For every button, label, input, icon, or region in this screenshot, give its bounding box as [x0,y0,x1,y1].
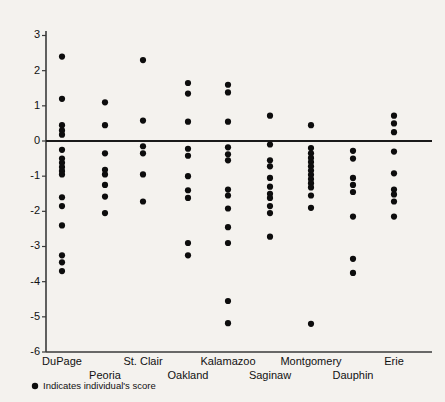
data-point [350,189,356,195]
data-point [391,120,397,126]
data-point [350,256,356,262]
data-point [59,96,65,102]
data-point [59,122,65,128]
data-point [59,252,65,258]
data-point [185,173,191,179]
data-point [140,171,146,177]
data-point [185,240,191,246]
data-point [391,198,397,204]
data-point [140,150,146,156]
data-point [225,192,231,198]
data-point [308,145,314,151]
data-point [59,147,65,153]
data-point [59,259,65,265]
data-point [350,214,356,220]
data-point [225,186,231,192]
data-point [391,214,397,220]
data-point [391,113,397,119]
data-point [267,234,273,240]
y-tick-label: -2 [30,204,40,216]
data-point [267,141,273,147]
data-point [140,57,146,63]
data-point-group [59,54,397,327]
y-axis-tick-labels: 3210-1-2-3-4-5-6 [30,28,40,357]
data-point [102,193,108,199]
y-tick-label: -4 [30,275,40,287]
data-point [102,122,108,128]
x-category-label: Montgomery [280,355,342,367]
data-point [308,122,314,128]
data-point [267,210,273,216]
legend-marker-icon [32,383,38,389]
data-point [350,182,356,188]
scatter-plot-canvas: 3210-1-2-3-4-5-6 DuPagePeoriaSt. ClairOa… [0,0,445,402]
data-point [267,184,273,190]
data-point [308,192,314,198]
data-point [225,144,231,150]
x-category-label: DuPage [42,355,82,367]
data-point [308,321,314,327]
data-point [350,175,356,181]
data-point [59,194,65,200]
data-point [350,270,356,276]
y-tick-label: 0 [34,134,40,146]
y-tick-label: 1 [34,99,40,111]
data-point [225,82,231,88]
data-point [225,320,231,326]
data-point [391,129,397,135]
data-point [59,268,65,274]
data-point [185,252,191,258]
data-point [391,191,397,197]
data-point [350,148,356,154]
data-point [102,99,108,105]
data-point [225,151,231,157]
data-point [185,80,191,86]
data-point [225,157,231,163]
data-point [185,195,191,201]
x-category-label: Oakland [168,369,209,381]
data-point [59,171,65,177]
data-point [225,119,231,125]
y-tick-label: -5 [30,310,40,322]
data-point [391,148,397,154]
data-point [267,203,273,209]
data-point [59,132,65,138]
data-point [267,195,273,201]
data-point [308,205,314,211]
data-point [267,113,273,119]
x-category-label: Erie [384,355,404,367]
data-point [140,198,146,204]
y-tick-label: -1 [30,169,40,181]
data-point [267,175,273,181]
data-point [185,146,191,152]
dot-plot-figure: 3210-1-2-3-4-5-6 DuPagePeoriaSt. ClairOa… [0,0,445,402]
data-point [185,153,191,159]
data-point [140,143,146,149]
data-point [185,187,191,193]
legend-label: Indicates individual's score [43,380,156,391]
data-point [102,171,108,177]
x-category-label: St. Clair [123,355,162,367]
y-tick-label: -3 [30,239,40,251]
data-point [225,89,231,95]
data-point [350,155,356,161]
y-tick-label: 2 [34,64,40,76]
data-point [102,210,108,216]
data-point [391,170,397,176]
data-point [267,157,273,163]
data-point [59,222,65,228]
data-point [185,119,191,125]
data-point [225,240,231,246]
x-category-label: Kalamazoo [200,355,255,367]
data-point [102,182,108,188]
data-point [267,163,273,169]
data-point [225,205,231,211]
data-point [308,184,314,190]
data-point [59,54,65,60]
data-point [102,150,108,156]
data-point [225,298,231,304]
data-point [225,224,231,230]
x-category-label: Dauphin [333,369,374,381]
data-point [140,118,146,124]
data-point [185,90,191,96]
